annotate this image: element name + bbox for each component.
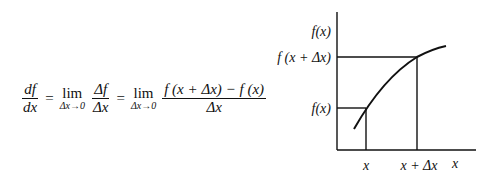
function-curve (354, 46, 446, 129)
y-tick-upper: f (x + Δx) (277, 50, 331, 66)
x-tick-right: x + Δx (399, 158, 438, 173)
x-tick-left: x (362, 158, 370, 173)
function-graph: f(x) f (x + Δx) f(x) x x + Δx x (0, 0, 492, 175)
y-axis-label: f(x) (312, 24, 332, 40)
y-tick-lower: f(x) (312, 101, 332, 117)
x-axis-label: x (451, 156, 459, 171)
